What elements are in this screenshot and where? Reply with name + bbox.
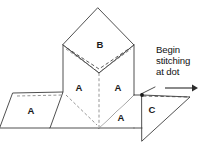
callout-line-2: stitching	[156, 55, 208, 66]
stitch-direction-arrow-head	[192, 85, 198, 92]
label-right-triangle-c: C	[149, 104, 156, 115]
stitch-start-dot	[140, 93, 144, 97]
label-left-flap-a: A	[28, 105, 35, 116]
figure-canvas: B A A A A C Begin stitching at dot	[0, 0, 208, 153]
label-bottom-right-flap-a: A	[118, 112, 125, 123]
callout-line-3: at dot	[156, 66, 208, 77]
label-top-face-b: B	[97, 39, 104, 50]
c-connector-edges	[134, 95, 142, 128]
callout-line-1: Begin	[156, 44, 208, 55]
stitching-callout-text: Begin stitching at dot	[156, 44, 208, 78]
callout-leader-line	[141, 87, 155, 94]
label-upright-right-a: A	[115, 82, 122, 93]
label-upright-left-a: A	[76, 82, 83, 93]
